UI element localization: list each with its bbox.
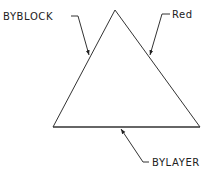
callout-bylayer: BYLAYER xyxy=(121,129,200,168)
byblock-label: BYBLOCK xyxy=(3,11,53,22)
triangle-left-edge xyxy=(53,10,115,127)
red-leader-line xyxy=(150,14,170,55)
bylayer-label: BYLAYER xyxy=(152,157,200,168)
red-label: Red xyxy=(172,9,193,20)
byblock-leader-line xyxy=(71,16,89,55)
triangle xyxy=(53,10,200,127)
callout-red: Red xyxy=(150,9,193,55)
triangle-right-edge xyxy=(115,10,200,127)
bylayer-leader-line xyxy=(121,129,149,162)
triangle-diagram: BYBLOCK Red BYLAYER xyxy=(0,0,222,174)
callout-byblock: BYBLOCK xyxy=(3,11,89,55)
